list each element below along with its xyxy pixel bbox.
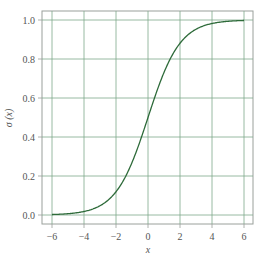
y-tick-label: 0.8 (23, 54, 36, 65)
y-tick-label: 0.0 (23, 210, 36, 221)
x-tick-label: 4 (210, 231, 215, 242)
x-tick-label: 6 (242, 231, 247, 242)
x-tick-label: −4 (79, 231, 90, 242)
sigmoid-chart: −6−4−20246 0.00.20.40.60.81.0 x σ (x) (0, 0, 261, 261)
x-tick-label: 0 (146, 231, 151, 242)
y-tick-label: 1.0 (23, 15, 36, 26)
y-tick-label: 0.6 (23, 93, 36, 104)
x-axis-label: x (145, 244, 151, 255)
x-tick-label: −6 (47, 231, 58, 242)
x-axis-ticks: −6−4−20246 (47, 224, 247, 242)
y-axis-ticks: 0.00.20.40.60.81.0 (23, 15, 43, 221)
x-tick-label: 2 (178, 231, 183, 242)
y-tick-label: 0.2 (23, 171, 36, 182)
y-axis-label: σ (x) (3, 108, 15, 127)
y-tick-label: 0.4 (23, 132, 36, 143)
x-tick-label: −2 (111, 231, 122, 242)
